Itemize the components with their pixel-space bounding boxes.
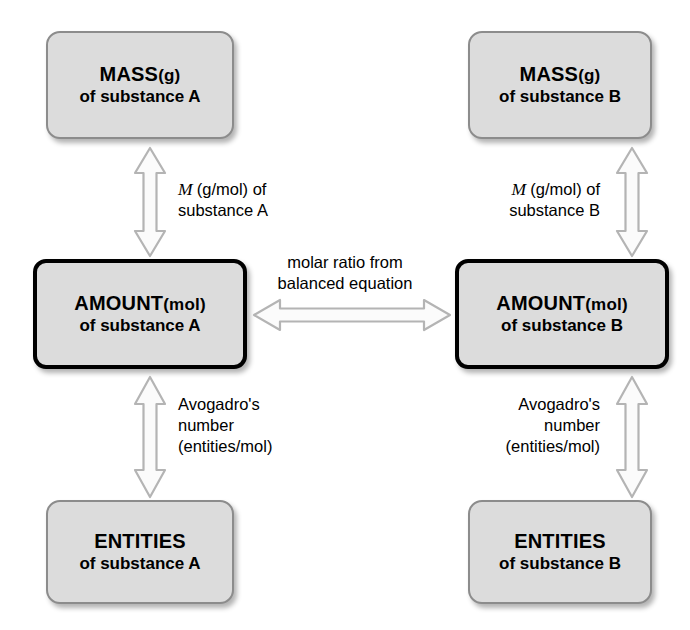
label-molar-mass-a-line2: substance A (178, 200, 268, 221)
label-avogadro-b-line3: (entities/mol) (506, 436, 600, 457)
double-arrow-vertical-icon-amount-entities-b (612, 375, 652, 499)
molar-mass-symbol: M (512, 179, 526, 199)
node-amount-b-unit: (mol) (585, 295, 628, 314)
label-avogadro-a-line2: number (178, 415, 272, 436)
node-amount-a-unit: (mol) (163, 295, 206, 314)
label-avogadro-number-b: Avogadro's number (entities/mol) (506, 394, 600, 457)
node-entities-substance-b: ENTITIES of substance B (468, 500, 652, 604)
node-mass-b-heading: MASS(g) (520, 64, 601, 86)
node-mass-a-unit: (g) (158, 66, 180, 85)
label-molar-mass-b: M (g/mol) of substance B (509, 178, 600, 222)
node-entities-a-subtitle: of substance A (79, 554, 200, 573)
label-avogadro-b-line2: number (506, 415, 600, 436)
double-arrow-vertical-icon-mass-amount-b (612, 146, 652, 258)
label-molar-mass-b-line2: substance B (509, 200, 600, 221)
label-molar-mass-a-line1: M (g/mol) of (178, 178, 268, 200)
label-avogadro-b-line1: Avogadro's (506, 394, 600, 415)
label-molar-ratio-line1: molar ratio from (278, 252, 413, 273)
double-arrow-vertical-icon-mass-amount-a (130, 146, 170, 258)
stoichiometry-diagram: MASS(g) of substance A M (g/mol) of subs… (0, 0, 690, 630)
node-mass-substance-a: MASS(g) of substance A (46, 31, 234, 139)
node-entities-b-subtitle: of substance B (499, 554, 621, 573)
node-mass-a-subtitle: of substance A (79, 87, 200, 106)
double-arrow-vertical-icon-amount-entities-a (130, 375, 170, 499)
double-arrow-horizontal-icon-molar-ratio (252, 296, 452, 334)
label-avogadro-number-a: Avogadro's number (entities/mol) (178, 394, 272, 457)
node-mass-a-heading: MASS(g) (100, 64, 181, 86)
node-mass-b-subtitle: of substance B (499, 87, 621, 106)
label-molar-ratio-line2: balanced equation (278, 273, 413, 294)
label-molar-mass-a: M (g/mol) of substance A (178, 178, 268, 222)
node-amount-substance-b: AMOUNT(mol) of substance B (455, 259, 669, 369)
node-amount-a-heading: AMOUNT(mol) (74, 293, 206, 315)
node-entities-substance-a: ENTITIES of substance A (46, 500, 234, 604)
label-molar-mass-b-line1: M (g/mol) of (509, 178, 600, 200)
node-amount-a-subtitle: of substance A (79, 316, 200, 335)
label-avogadro-a-line1: Avogadro's (178, 394, 272, 415)
molar-mass-symbol: M (178, 179, 192, 199)
node-entities-b-heading: ENTITIES (514, 531, 606, 553)
node-mass-b-unit: (g) (578, 66, 600, 85)
node-mass-substance-b: MASS(g) of substance B (468, 31, 652, 139)
node-entities-a-heading: ENTITIES (94, 531, 186, 553)
node-amount-b-subtitle: of substance B (501, 316, 623, 335)
node-amount-b-heading: AMOUNT(mol) (496, 293, 628, 315)
label-avogadro-a-line3: (entities/mol) (178, 436, 272, 457)
